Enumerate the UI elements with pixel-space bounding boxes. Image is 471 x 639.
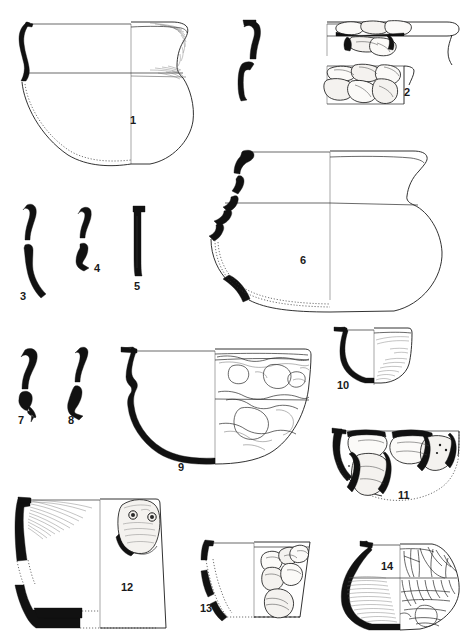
figure-2-label: 2 [404, 86, 410, 98]
figure-14-label: 14 [381, 560, 394, 572]
figure-1-label: 1 [130, 114, 136, 126]
plate-canvas: 1 [0, 0, 471, 639]
figure-2-inclusions-lower [324, 64, 401, 103]
figure-12-applied-lug [116, 500, 160, 556]
figure-3-label: 3 [20, 290, 26, 302]
figure-2-rim-tick-upper [243, 20, 256, 25]
figure-9-label: 9 [178, 461, 184, 473]
figure-11-label: 11 [398, 489, 410, 501]
figure-6-label: 6 [300, 254, 306, 266]
figure-12-rim-tick-12 [18, 497, 31, 503]
figure-4-label: 4 [94, 262, 101, 274]
figure-12-label: 12 [121, 581, 133, 593]
figure-8-label: 8 [68, 414, 74, 426]
figure-10-rim-tick [334, 327, 347, 332]
figure-10-label: 10 [337, 379, 349, 391]
figure-12-base-black [34, 608, 82, 618]
figure-5-label: 5 [134, 280, 140, 292]
pottery-plate: 1 [0, 0, 471, 639]
figure-7-label: 7 [18, 414, 24, 426]
figure-13-label: 13 [200, 602, 212, 614]
